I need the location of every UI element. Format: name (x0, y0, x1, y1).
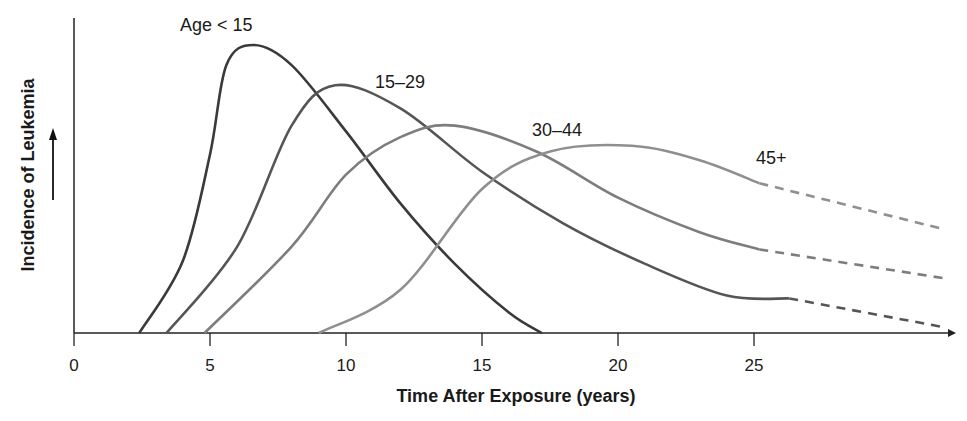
y-axis-label: Incidence of Leukemia (18, 77, 38, 271)
curve-extrapolation-3 (759, 183, 944, 229)
series-label: 45+ (756, 148, 787, 168)
x-tick-label: 10 (337, 356, 356, 375)
series-curves (139, 45, 944, 333)
series-label: 15–29 (375, 72, 425, 92)
curve-series-3 (319, 145, 760, 333)
series-label: 30–44 (532, 120, 582, 140)
x-ticks: 0510152025 (69, 333, 763, 375)
x-tick-label: 25 (745, 356, 764, 375)
x-tick-label: 20 (609, 356, 628, 375)
x-tick-label: 5 (205, 356, 214, 375)
x-axis-arrow-icon (948, 329, 956, 337)
series-labels: Age < 1515–2930–4445+ (180, 15, 787, 168)
series-label: Age < 15 (180, 15, 253, 35)
curve-series-2 (205, 125, 760, 333)
up-arrow-icon (49, 128, 57, 200)
x-axis-label: Time After Exposure (years) (396, 386, 635, 406)
curve-series-1 (166, 85, 789, 333)
curve-extrapolation-1 (789, 298, 944, 327)
leukemia-incidence-chart: Incidence of Leukemia 0510152025 Time Af… (0, 0, 967, 421)
x-tick-label: 15 (473, 356, 492, 375)
x-tick-label: 0 (69, 356, 78, 375)
curve-extrapolation-2 (759, 249, 944, 278)
